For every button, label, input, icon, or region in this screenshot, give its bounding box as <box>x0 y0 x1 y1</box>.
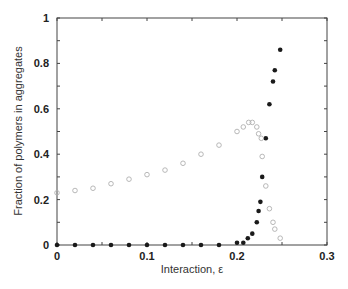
y-tick-label: 1 <box>43 12 49 24</box>
filled-circle-point <box>264 136 269 141</box>
y-tick-label: 0.6 <box>34 103 49 115</box>
filled-circle-point <box>256 209 261 214</box>
y-tick-label: 0.2 <box>34 194 49 206</box>
open-circle-point <box>264 184 269 189</box>
plot-border <box>57 18 327 245</box>
open-circle-point <box>199 152 204 157</box>
filled-circle-point <box>91 243 96 248</box>
filled-circle-point <box>254 220 259 225</box>
open-circle-point <box>271 220 276 225</box>
open-circle-point <box>256 131 261 136</box>
filled-circle-point <box>217 243 222 248</box>
x-axis-label: Interaction, ε <box>161 263 223 275</box>
x-tick-label: 0 <box>54 250 60 262</box>
open-circle-point <box>217 143 222 148</box>
filled-circle-point <box>250 231 255 236</box>
x-tick-label: 0.3 <box>319 250 334 262</box>
y-tick-label: 0 <box>43 239 49 251</box>
filled-circle-point <box>258 200 263 205</box>
open-circle-point <box>278 236 283 241</box>
open-circle-point <box>73 188 78 193</box>
open-circle-point <box>260 154 265 159</box>
filled-circle-point <box>181 243 186 248</box>
data-points <box>55 47 283 247</box>
filled-circle-point <box>260 175 265 180</box>
y-tick-label: 0.4 <box>34 148 50 160</box>
axis-tick-labels: 00.10.20.300.20.40.60.81 <box>34 12 335 262</box>
filled-circle-point <box>267 102 272 107</box>
open-circle-point <box>127 177 132 182</box>
x-tick-label: 0.2 <box>229 250 244 262</box>
filled-circle-point <box>241 240 246 245</box>
open-circle-point <box>273 227 278 232</box>
filled-circle-point <box>246 236 251 241</box>
open-circle-point <box>241 125 246 130</box>
open-circle-point <box>163 168 168 173</box>
filled-circle-point <box>145 243 150 248</box>
y-axis-label: Fraction of polymers in aggregates <box>12 46 24 216</box>
open-circle-point <box>145 172 150 177</box>
filled-circle-point <box>235 240 240 245</box>
scatter-chart: 00.10.20.300.20.40.60.81 Interaction, ε … <box>0 0 348 289</box>
x-tick-label: 0.1 <box>139 250 154 262</box>
axis-ticks <box>57 18 327 245</box>
filled-circle-point <box>55 243 60 248</box>
filled-circle-point <box>109 243 114 248</box>
filled-circle-point <box>163 243 168 248</box>
filled-circle-point <box>199 243 204 248</box>
open-circle-point <box>91 186 96 191</box>
open-circle-point <box>181 161 186 166</box>
y-tick-label: 0.8 <box>34 57 49 69</box>
plot-frame <box>57 18 327 245</box>
open-circle-point <box>109 181 114 186</box>
filled-circle-point <box>127 243 132 248</box>
open-circle-point <box>259 136 264 141</box>
open-circle-point <box>267 206 272 211</box>
filled-circle-point <box>273 68 278 73</box>
open-circle-point <box>254 125 259 130</box>
open-circle-point <box>235 129 240 134</box>
filled-circle-point <box>73 243 78 248</box>
filled-circle-point <box>278 47 283 52</box>
filled-circle-point <box>271 79 276 84</box>
